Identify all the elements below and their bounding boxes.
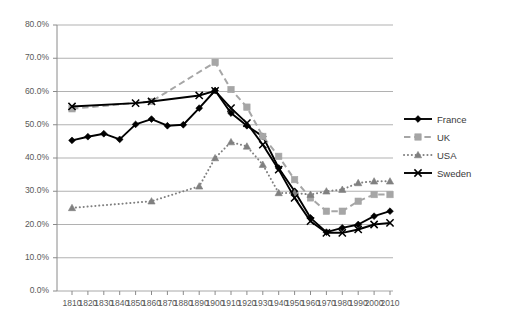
legend-swatch-uk-icon [403,130,433,144]
data-point-marker [323,208,329,214]
x-axis-tick-label: 2010 [377,299,403,308]
chart-legend: FranceUKUSASweden [403,110,503,182]
legend-swatch-usa-icon [403,148,433,162]
data-point-marker [339,208,345,214]
data-point-marker [260,133,266,139]
legend-swatch-sweden-icon [403,166,433,180]
x-axis-ticks [53,25,390,295]
data-point-marker [69,137,76,144]
data-point-marker [355,179,362,185]
legend-label: USA [433,150,457,161]
y-axis-tick-label: 80.0% [5,20,49,29]
legend-item-france[interactable]: France [403,110,503,128]
legend-label: Sweden [433,168,471,179]
data-series-group [68,59,393,236]
data-point-marker [228,86,234,92]
data-point-marker [415,116,422,123]
data-point-marker [355,198,361,204]
data-point-marker [164,122,171,129]
y-axis-tick-label: 10.0% [5,253,49,262]
data-point-marker [259,141,266,148]
data-point-marker [276,153,282,159]
data-point-marker [371,191,377,197]
series-usa [68,138,393,210]
y-axis-tick-label: 70.0% [5,53,49,62]
y-axis-tick-label: 50.0% [5,120,49,129]
legend-label: UK [433,132,450,143]
data-point-marker [415,134,421,140]
data-point-marker [371,178,378,184]
data-point-marker [387,191,393,197]
y-axis-tick-label: 40.0% [5,153,49,162]
y-axis-tick-label: 20.0% [5,220,49,229]
data-point-marker [100,130,107,137]
data-point-marker [386,178,393,184]
legend-item-usa[interactable]: USA [403,146,503,164]
data-point-marker [212,59,218,65]
data-point-marker [68,204,75,210]
legend-label: France [433,114,467,125]
y-axis-tick-label: 30.0% [5,186,49,195]
legend-item-uk[interactable]: UK [403,128,503,146]
chart-container: 0.0%10.0%20.0%30.0%40.0%50.0%60.0%70.0%8… [0,0,506,323]
data-point-marker [244,104,250,110]
y-axis-tick-label: 0.0% [5,286,49,295]
legend-item-sweden[interactable]: Sweden [403,164,503,182]
data-point-marker [371,213,378,220]
data-point-marker [291,176,297,182]
data-point-marker [387,208,394,215]
y-axis-tick-label: 60.0% [5,87,49,96]
gridlines [57,25,393,291]
data-point-marker [227,138,234,144]
series-line [72,142,390,208]
data-point-marker [148,116,155,123]
data-point-marker [196,183,203,189]
legend-swatch-france-icon [403,112,433,126]
data-point-marker [85,133,92,140]
